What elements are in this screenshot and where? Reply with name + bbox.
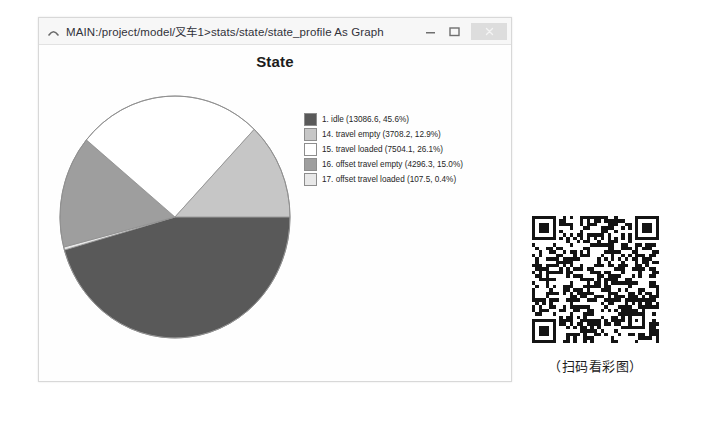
window-controls: [423, 18, 507, 44]
legend-swatch: [304, 173, 317, 186]
legend-label: 14. travel empty (3708.2, 12.9%): [322, 129, 441, 140]
window-title-text: MAIN:/project/model/叉车1>stats/state/stat…: [66, 23, 384, 39]
chart-legend: 1. idle (13086.6, 45.6%)14. travel empty…: [304, 113, 499, 188]
qr-code: [532, 216, 659, 343]
legend-item: 14. travel empty (3708.2, 12.9%): [304, 128, 499, 140]
legend-item: 15. travel loaded (7504.1, 26.1%): [304, 143, 499, 155]
close-icon[interactable]: [471, 23, 507, 40]
maximize-icon[interactable]: [447, 24, 462, 39]
legend-item: 16. offset travel empty (4296.3, 15.0%): [304, 158, 499, 170]
legend-label: 17. offset travel loaded (107.5, 0.4%): [322, 174, 456, 185]
legend-swatch: [304, 128, 317, 141]
legend-item: 1. idle (13086.6, 45.6%): [304, 113, 499, 125]
chart-title: State: [39, 45, 511, 70]
qr-caption: （扫码看彩图）: [523, 356, 668, 375]
legend-swatch: [304, 143, 317, 156]
caret-up-icon[interactable]: [47, 25, 60, 38]
legend-label: 15. travel loaded (7504.1, 26.1%): [322, 144, 443, 155]
legend-item: 17. offset travel loaded (107.5, 0.4%): [304, 173, 499, 185]
application-window: MAIN:/project/model/叉车1>stats/state/stat…: [38, 17, 512, 382]
pie-slices: [60, 96, 290, 338]
legend-label: 16. offset travel empty (4296.3, 15.0%): [322, 159, 463, 170]
pie-chart-svg: [55, 91, 295, 343]
legend-label: 1. idle (13086.6, 45.6%): [322, 114, 409, 125]
legend-swatch: [304, 158, 317, 171]
minimize-icon[interactable]: [423, 24, 438, 39]
window-title-bar[interactable]: MAIN:/project/model/叉车1>stats/state/stat…: [39, 18, 511, 45]
pie-chart: [55, 91, 295, 343]
chart-area: State 1. idle (13086.6, 45.6%)14. travel…: [39, 45, 511, 381]
legend-swatch: [304, 113, 317, 126]
qr-block: （扫码看彩图）: [523, 216, 668, 375]
